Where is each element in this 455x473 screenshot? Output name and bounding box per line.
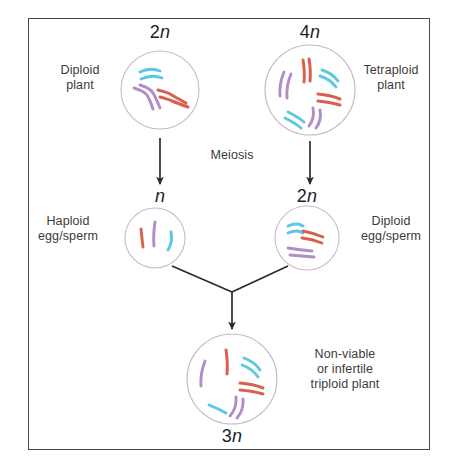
label-haploid-gamete: Haploid egg/sperm — [22, 214, 114, 244]
ploidy-text: 2n — [297, 186, 317, 206]
ploidy-text: 2n — [150, 22, 170, 42]
ploidy-label-top-left: 2n — [130, 22, 190, 43]
diagram-canvas: 2n 4n n 2n 3n Diploid plant Tetraploid p… — [0, 0, 455, 473]
ploidy-label-top-right: 4n — [280, 22, 340, 43]
ploidy-text: 4n — [300, 22, 320, 42]
label-meiosis: Meiosis — [192, 148, 272, 163]
label-diploid-gamete: Diploid egg/sperm — [345, 214, 437, 244]
ploidy-label-mid-right: 2n — [277, 186, 337, 207]
ploidy-text: 3n — [222, 426, 242, 446]
label-diploid-plant: Diploid plant — [42, 63, 118, 93]
ploidy-text: n — [155, 186, 165, 206]
ploidy-label-bottom: 3n — [202, 426, 262, 447]
label-triploid-result: Non-viable or infertile triploid plant — [290, 347, 400, 392]
label-tetraploid-plant: Tetraploid plant — [352, 63, 430, 93]
ploidy-label-mid-left: n — [130, 186, 190, 207]
